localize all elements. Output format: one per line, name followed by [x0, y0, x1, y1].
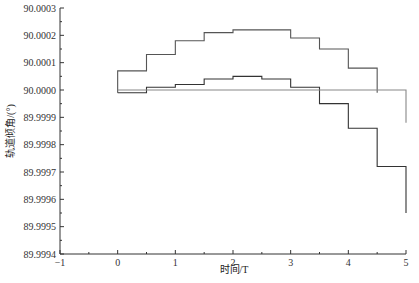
x-tick-label: 4: [346, 257, 351, 268]
y-tick-label: 90.0003: [24, 3, 57, 14]
y-tick-label: 90.0001: [24, 57, 57, 68]
axes: −101234589.999489.999589.999689.999789.9…: [24, 3, 409, 269]
x-tick-label: 1: [173, 257, 178, 268]
y-tick-label: 90.0000: [24, 85, 57, 96]
y-tick-label: 89.9999: [24, 112, 57, 123]
x-axis-label: 时间/T: [220, 263, 249, 275]
series-upper-line: [118, 30, 378, 93]
x-tick-label: −1: [55, 257, 66, 268]
x-tick-label: 5: [404, 257, 409, 268]
y-tick-label: 89.9995: [24, 221, 57, 232]
x-tick-label: 3: [288, 257, 293, 268]
x-tick-label: 0: [115, 257, 120, 268]
y-tick-label: 89.9997: [24, 167, 57, 178]
y-tick-label: 90.0002: [24, 30, 57, 41]
y-tick-label: 89.9998: [24, 139, 57, 150]
series-group: [118, 30, 406, 213]
series-reference-line: [118, 90, 406, 123]
chart-canvas: −101234589.999489.999589.999689.999789.9…: [0, 0, 419, 283]
y-axis-label: 轨道倾角/(°): [4, 104, 17, 157]
y-tick-label: 89.9994: [24, 249, 57, 260]
y-tick-label: 89.9996: [24, 194, 57, 205]
series-lower-line: [118, 76, 406, 213]
